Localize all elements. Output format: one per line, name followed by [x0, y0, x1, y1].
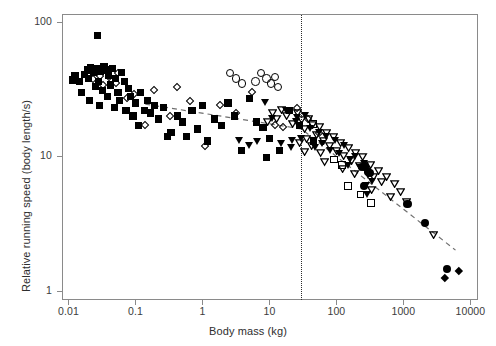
x-tick-label: 10000 [430, 305, 496, 317]
data-point-filled-square [78, 89, 85, 96]
data-point-filled-square [199, 102, 206, 109]
data-point-filled-square [122, 107, 129, 114]
x-axis-title: Body mass (kg) [0, 325, 496, 337]
data-point-open-square [330, 156, 338, 164]
data-point-filled-square [160, 104, 167, 111]
data-point-filled-square [104, 93, 111, 100]
data-point-filled-square [151, 102, 158, 109]
data-point-open-triangle-down [277, 106, 286, 114]
data-point-open-triangle-down [300, 148, 309, 156]
data-point-open-triangle-down [429, 231, 438, 239]
data-point-filled-square [96, 102, 103, 109]
data-point-open-triangle-down [367, 186, 376, 194]
data-point-open-triangle-down [396, 188, 405, 196]
data-point-filled-square [86, 97, 93, 104]
data-point-open-triangle-down [320, 158, 329, 166]
data-point-filled-square [218, 122, 225, 129]
y-axis-title: Relative running speed (body length/s) [20, 100, 32, 292]
data-point-filled-square [94, 32, 101, 39]
data-point-open-square [338, 161, 346, 169]
data-point-filled-square [194, 125, 201, 132]
data-point-filled-triangle-down [235, 137, 243, 144]
figure-container: 0.010.1110100100010000100101 Body mass (… [0, 0, 496, 346]
y-tick-mark [57, 156, 62, 157]
data-point-filled-circle [421, 219, 429, 227]
data-point-filled-square [276, 147, 283, 154]
data-point-filled-square [155, 115, 162, 122]
data-point-filled-square [238, 147, 245, 154]
data-point-open-square [357, 191, 365, 199]
data-point-filled-square [137, 89, 144, 96]
data-point-filled-square [147, 109, 154, 116]
data-point-open-circle [271, 73, 279, 81]
data-point-open-triangle-down [390, 180, 399, 188]
y-tick-label: 100 [10, 15, 52, 27]
data-point-open-triangle-down [288, 120, 297, 128]
data-point-open-triangle-down [263, 118, 272, 126]
data-point-filled-square [114, 89, 121, 96]
data-point-filled-square [188, 107, 195, 114]
y-tick-mark [57, 22, 62, 23]
data-point-open-circle [251, 77, 259, 85]
data-point-open-triangle-down [295, 139, 304, 147]
data-point-filled-square [111, 104, 118, 111]
data-point-filled-square [132, 99, 139, 106]
data-point-filled-square [266, 135, 273, 142]
y-tick-mark [57, 291, 62, 292]
data-point-filled-square [183, 133, 190, 140]
data-point-filled-square [76, 78, 83, 85]
trend-line [62, 14, 478, 300]
data-point-open-square [367, 199, 375, 207]
data-point-filled-triangle-down [261, 99, 269, 106]
data-point-open-square [344, 182, 352, 190]
data-point-filled-square [263, 154, 270, 161]
data-point-filled-triangle-down [287, 144, 295, 151]
data-point-open-triangle-down [386, 193, 395, 201]
data-point-open-circle [238, 79, 246, 87]
data-point-filled-square [129, 112, 136, 119]
data-point-filled-square [167, 129, 174, 136]
data-point-filled-circle [403, 200, 411, 208]
data-point-open-triangle-down [268, 109, 277, 117]
data-point-open-triangle-down [316, 149, 325, 157]
data-point-filled-triangle-down [253, 138, 261, 145]
data-point-filled-triangle-down [277, 140, 285, 147]
data-point-filled-square [179, 118, 186, 125]
data-point-filled-square [224, 99, 231, 106]
data-point-open-triangle-down [350, 170, 359, 178]
data-point-open-square [309, 120, 317, 128]
